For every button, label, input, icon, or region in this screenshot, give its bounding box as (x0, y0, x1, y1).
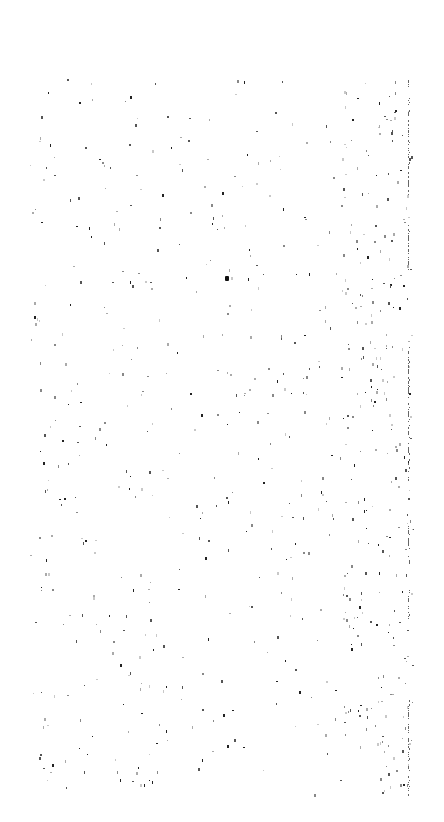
noise-speck (62, 333, 63, 336)
noise-speck (238, 452, 239, 455)
noise-speck (166, 686, 167, 688)
noise-speck (67, 79, 69, 81)
noise-speck (405, 549, 407, 550)
noise-speck (357, 167, 358, 170)
noise-speck (159, 724, 160, 726)
noise-speck (69, 615, 71, 616)
noise-speck (372, 301, 374, 304)
edge-line-fragment (409, 110, 410, 112)
noise-speck (389, 624, 390, 626)
noise-speck (330, 327, 331, 330)
noise-speck (359, 606, 361, 609)
noise-speck (91, 236, 92, 238)
noise-speck (100, 630, 101, 633)
edge-line-fragment (409, 231, 410, 232)
noise-speck (217, 414, 219, 416)
noise-speck (378, 701, 379, 703)
noise-speck (343, 188, 345, 191)
noise-speck (389, 555, 390, 557)
noise-speck (229, 613, 231, 614)
noise-speck (205, 557, 207, 560)
noise-speck (308, 552, 310, 555)
noise-speck (41, 590, 42, 591)
noise-speck (272, 394, 274, 397)
noise-speck (47, 725, 49, 726)
noise-speck (406, 207, 407, 210)
noise-speck (55, 420, 56, 421)
noise-speck (386, 766, 387, 767)
noise-speck (355, 307, 357, 309)
noise-speck (286, 559, 287, 560)
edge-line-fragment (409, 162, 410, 164)
noise-speck (404, 222, 406, 223)
noise-speck (133, 589, 134, 592)
edge-line-fragment (408, 526, 409, 527)
noise-speck (360, 306, 362, 307)
noise-speck (407, 514, 408, 516)
edge-line-fragment (408, 251, 409, 252)
noise-speck (198, 768, 200, 771)
noise-speck (366, 510, 367, 511)
noise-speck (232, 492, 233, 493)
noise-speck (343, 254, 345, 257)
edge-line-fragment (408, 190, 409, 192)
noise-speck (341, 205, 343, 207)
edge-line-fragment (408, 176, 409, 178)
noise-speck (126, 470, 127, 473)
noise-speck (352, 518, 354, 521)
noise-speck (208, 638, 209, 641)
noise-speck (283, 245, 285, 247)
edge-line-fragment (408, 233, 409, 234)
noise-speck (206, 264, 207, 265)
noise-speck (44, 718, 46, 721)
noise-speck (79, 426, 81, 427)
noise-speck (411, 156, 413, 159)
noise-speck (242, 186, 243, 187)
edge-line-fragment (408, 776, 409, 778)
noise-speck (410, 438, 412, 439)
noise-speck (202, 709, 204, 711)
noise-speck (290, 557, 292, 558)
noise-speck (152, 495, 153, 496)
noise-speck (374, 348, 376, 349)
noise-speck (106, 313, 108, 314)
noise-speck (213, 720, 214, 722)
noise-speck (360, 405, 361, 408)
noise-speck (349, 368, 350, 371)
noise-speck (347, 288, 349, 290)
edge-line-fragment (408, 528, 409, 529)
noise-speck (156, 743, 158, 744)
edge-line-fragment (408, 443, 409, 444)
noise-speck (275, 112, 277, 114)
edge-line-fragment (409, 534, 410, 535)
noise-speck (281, 592, 282, 594)
noise-speck (228, 549, 229, 552)
noise-speck (222, 215, 223, 217)
noise-speck (114, 223, 115, 226)
noise-speck (52, 764, 54, 767)
edge-line-fragment (408, 421, 409, 422)
noise-speck (80, 281, 82, 284)
edge-line-fragment (409, 98, 410, 99)
noise-speck (149, 754, 150, 755)
noise-speck (361, 599, 362, 601)
noise-speck (394, 112, 396, 113)
noise-speck (402, 348, 403, 351)
edge-line-fragment (408, 618, 409, 619)
noise-speck (249, 606, 250, 607)
noise-speck (341, 367, 343, 370)
edge-line-fragment (409, 347, 410, 348)
noise-speck (188, 140, 190, 142)
noise-speck (344, 587, 345, 590)
noise-speck (213, 217, 214, 220)
noise-speck (39, 320, 40, 322)
noise-speck (303, 378, 304, 379)
noise-speck (251, 309, 252, 311)
noise-speck (68, 404, 69, 405)
noise-speck (199, 537, 200, 540)
noise-speck (73, 266, 75, 267)
noise-speck (79, 748, 80, 749)
noise-speck (202, 759, 203, 762)
edge-line-fragment (408, 148, 409, 149)
edge-line-fragment (408, 383, 409, 384)
